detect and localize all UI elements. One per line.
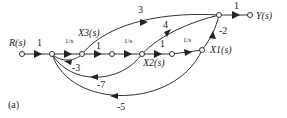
edge-fb-x2 xyxy=(52,54,142,77)
signal-flow-graph: R(s) X3(s) X2(s) X1(s) Y(s) 1 1/s 1 1/s … xyxy=(0,0,287,118)
gain-out-y: 1 xyxy=(234,0,239,11)
gain-x1-out: -2 xyxy=(219,25,227,36)
node-input xyxy=(20,52,25,57)
figure-label: (a) xyxy=(8,99,19,111)
gain-x2-out: 4 xyxy=(163,19,168,30)
node-x3 xyxy=(80,52,85,57)
arrow-icon xyxy=(64,60,72,65)
arrow-icon xyxy=(209,31,216,39)
arrow-icon xyxy=(124,50,132,58)
arrow-icon xyxy=(232,11,240,19)
edge-x2-out xyxy=(142,15,219,54)
arrow-icon xyxy=(34,50,42,58)
gain-n1-x3: 1/s xyxy=(65,37,73,45)
gain-n3-x1: 1/s xyxy=(183,36,191,44)
label-output: Y(s) xyxy=(256,10,273,22)
gain-x3-n2: 1 xyxy=(96,40,101,51)
label-x1: X1(s) xyxy=(209,44,232,56)
arrow-icon xyxy=(184,49,192,56)
arrow-icon xyxy=(110,93,118,99)
node-n1 xyxy=(50,52,55,57)
label-x2: X2(s) xyxy=(142,57,165,69)
node-n3 xyxy=(170,52,175,57)
node-out xyxy=(217,13,222,18)
node-y xyxy=(248,13,253,18)
node-n2 xyxy=(110,52,115,57)
arrow-icon xyxy=(94,50,102,58)
gain-fb-x1: -5 xyxy=(117,101,125,112)
arrow-icon xyxy=(64,50,72,58)
gain-fb-x2: -7 xyxy=(97,79,105,90)
gain-fb-x3: -3 xyxy=(72,62,80,73)
gain-x2-n3: 1 xyxy=(160,38,165,49)
edge-x3-out xyxy=(82,14,219,54)
gain-x3-out: 3 xyxy=(138,4,143,15)
label-input: R(s) xyxy=(8,37,26,49)
label-x3: X3(s) xyxy=(77,27,100,39)
node-x2 xyxy=(140,52,145,57)
node-x1 xyxy=(200,48,205,53)
gain-r-n1: 1 xyxy=(37,37,42,48)
gain-n2-x2: 1/s xyxy=(124,37,132,45)
